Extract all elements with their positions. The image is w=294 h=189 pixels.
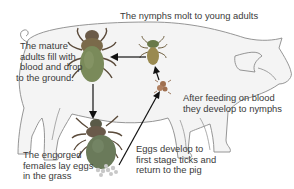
- label-nymphs-molt: The nymphs molt to young adults: [120, 11, 258, 22]
- label-eggs-develop: Eggs develop to first stage ticks and re…: [136, 144, 216, 176]
- label-engorged-females: The engorged females lay eggs in the gra…: [23, 150, 93, 182]
- label-mature-adults: The mature adults fill with blood and dr…: [20, 41, 83, 83]
- tick-life-cycle-diagram: The nymphs molt to young adults The matu…: [0, 0, 294, 189]
- label-after-feeding: After feeding on blood they develop to n…: [183, 93, 282, 114]
